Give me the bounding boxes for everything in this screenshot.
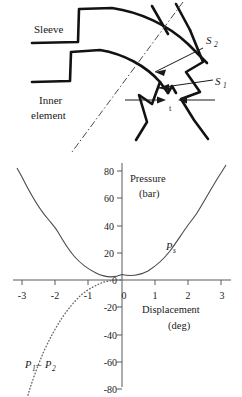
p2-label-subscript: 2 <box>52 364 56 373</box>
gap-thickness-dimension: t <box>125 97 215 114</box>
y-tick-label-60: 60 <box>104 193 114 204</box>
s1-label: S <box>215 75 221 87</box>
s2-label: S <box>206 34 212 46</box>
y-tick-label--40: -40 <box>104 330 117 341</box>
ps-label-base: P <box>165 241 173 252</box>
s2-arrowhead <box>155 70 166 77</box>
x-tick-label-1: 1 <box>153 290 158 301</box>
inner-element-label-line1: Inner <box>39 94 63 106</box>
s2-label-subscript: 2 <box>214 40 218 49</box>
sleeve-label: Sleeve <box>34 23 63 35</box>
y-tick-label-80: 80 <box>104 166 114 177</box>
s2-callout: S 2 <box>155 34 218 76</box>
y-tick-label--80: -80 <box>104 384 117 395</box>
ps-label-subscript: s <box>173 246 176 255</box>
sleeve-edge-stroke-b <box>176 4 190 30</box>
inner-element-tooth <box>136 82 160 140</box>
x-tick-label-3: 3 <box>220 290 225 301</box>
figure-container: Sleeve Inner element S 2 S 1 t <box>0 0 242 397</box>
x-tick-label-2: 2 <box>186 290 191 301</box>
x-axis-title-line2: (deg) <box>168 320 191 332</box>
y-axis-title-line2: (bar) <box>139 188 160 200</box>
series-p1-p2-label: P 1 – P 2 <box>24 359 56 373</box>
s1-callout: S 1 <box>158 75 227 91</box>
inner-element-outline <box>32 50 168 93</box>
y-tick-label--60: -60 <box>104 357 117 368</box>
series-ps-label: P s <box>165 241 176 255</box>
s2-leader-line <box>155 48 203 72</box>
s1-label-subscript: 1 <box>223 81 227 90</box>
inner-element-label-line2: element <box>31 109 66 121</box>
x-tick-labels: -3 -2 -1 0 1 2 3 <box>18 290 225 301</box>
p2-label-base: P <box>44 359 52 370</box>
p1-p2-operator: – <box>35 359 42 370</box>
pressure-displacement-chart: -3 -2 -1 0 1 2 3 80 60 40 20 0 -20 -40 -… <box>0 155 242 397</box>
centre-line <box>72 2 183 152</box>
y-tick-label-40: 40 <box>104 221 114 232</box>
gap-thickness-label: t <box>169 103 172 113</box>
p1-label-base: P <box>24 359 32 370</box>
x-tick-label--3: -3 <box>18 290 26 301</box>
y-tick-label-20: 20 <box>104 248 114 259</box>
x-tick-label--2: -2 <box>51 290 59 301</box>
y-tick-label--20: -20 <box>104 302 117 313</box>
x-axis-title-line1: Displacement <box>142 304 200 315</box>
t-arrow-left-head <box>157 97 166 104</box>
y-axis-title-line1: Pressure <box>130 173 166 184</box>
sleeve-inner-element-schematic: Sleeve Inner element S 2 S 1 t <box>0 0 242 155</box>
x-tick-label-0: 0 <box>122 290 127 301</box>
